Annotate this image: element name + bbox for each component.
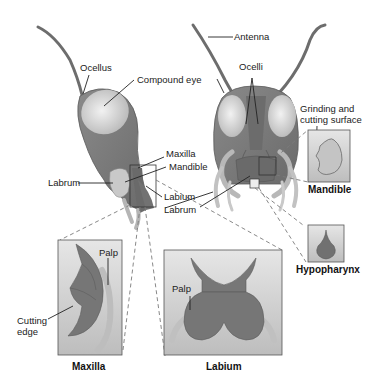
label-ocelli: Ocelli — [239, 61, 263, 72]
label-compound-eye: Compound eye — [137, 74, 201, 85]
caption-labium: Labium — [206, 361, 242, 372]
caption-hypopharynx: Hypopharynx — [296, 264, 360, 275]
side-antenna — [38, 27, 82, 95]
front-eye-right — [268, 95, 296, 137]
label-antenna: Antenna — [234, 31, 269, 42]
caption-mandible: Mandible — [308, 184, 351, 195]
front-hypopharynx-zoom-box — [250, 179, 259, 188]
label-labium-palp: Palp — [172, 283, 191, 294]
mandible-inset — [308, 130, 350, 182]
side-view-head — [38, 27, 156, 228]
label-grinding-line2: cutting surface — [300, 114, 362, 125]
insect-mouthparts-diagram: Ocellus Compound eye Maxilla Mandible La… — [0, 0, 381, 385]
hypopharynx-inset — [308, 225, 344, 262]
label-labrum-side: Labrum — [48, 177, 80, 188]
front-eye-left — [218, 95, 246, 137]
label-ocellus: Ocellus — [80, 62, 112, 73]
caption-maxilla: Maxilla — [72, 361, 105, 372]
label-grinding-line1: Grinding and — [300, 103, 354, 114]
label-mandible: Mandible — [169, 161, 208, 172]
label-cutting-line2: edge — [17, 326, 38, 337]
label-maxilla: Maxilla — [166, 148, 196, 159]
label-maxilla-palp: Palp — [99, 247, 118, 258]
label-labium: Labium — [164, 191, 195, 202]
labium-inset — [164, 250, 282, 355]
label-labrum-front: Labrum — [164, 204, 196, 215]
label-cutting-line1: Cutting — [17, 315, 47, 326]
